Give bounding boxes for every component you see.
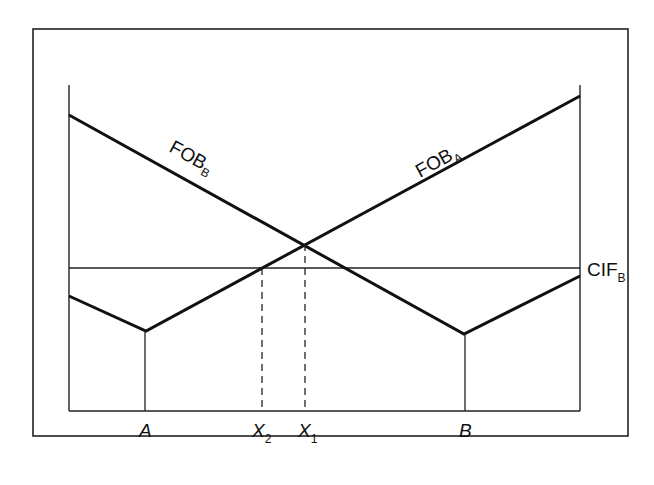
svg-text:FOBB: FOBB (164, 136, 217, 181)
fob-a-label: FOBA (412, 140, 465, 185)
cif-b-label: CIFB (587, 259, 626, 285)
fob-a-curve (69, 96, 580, 331)
fob-b-curve (69, 115, 580, 334)
x-label-x1: X1 (297, 420, 318, 446)
x-label-x2: X2 (251, 420, 272, 446)
x-label-b: B (459, 420, 472, 441)
svg-text:FOBA: FOBA (412, 140, 465, 185)
diagram-canvas: FOBB FOBA CIFB A X2 X1 B (0, 0, 654, 485)
x-label-a: A (138, 420, 152, 441)
fob-b-label: FOBB (164, 136, 217, 181)
